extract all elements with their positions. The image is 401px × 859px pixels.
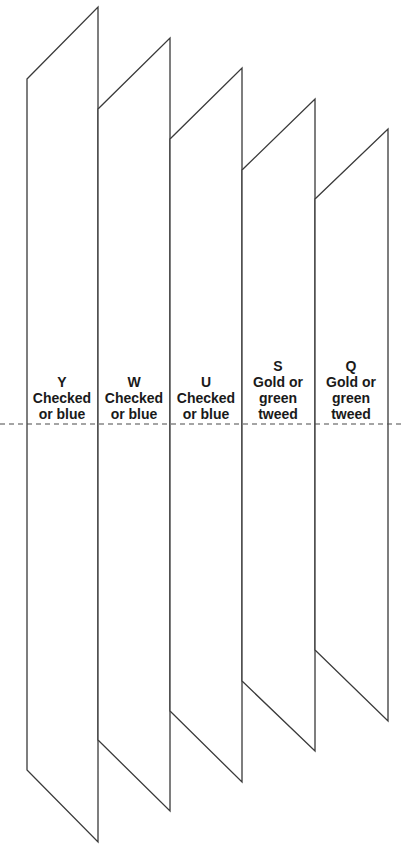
panel-label-line: Checked [26,390,98,406]
diagram-canvas: YCheckedor blueWCheckedor blueUCheckedor… [0,0,401,859]
panel-q [315,129,388,721]
panel-label-line: Q [315,358,387,374]
panel-label-line: or blue [26,406,98,422]
panel-label-line: or blue [170,406,242,422]
panel-label-line: tweed [242,406,314,422]
panel-label-w: WCheckedor blue [98,374,170,422]
panels-drawing [0,0,401,859]
panel-label-line: Checked [98,390,170,406]
panel-label-q: QGold orgreentweed [315,358,387,422]
panel-s [242,99,315,751]
panel-label-line: Gold or [242,374,314,390]
panel-label-line: or blue [98,406,170,422]
panel-label-line: U [170,374,242,390]
panel-label-line: green [242,390,314,406]
panel-u [170,68,242,782]
panel-label-line: green [315,390,387,406]
panel-label-line: W [98,374,170,390]
panel-label-line: Checked [170,390,242,406]
panel-label-u: UCheckedor blue [170,374,242,422]
panel-label-s: SGold orgreentweed [242,358,314,422]
panel-label-y: YCheckedor blue [26,374,98,422]
panel-label-line: S [242,358,314,374]
panel-label-line: Y [26,374,98,390]
panel-label-line: tweed [315,406,387,422]
panel-label-line: Gold or [315,374,387,390]
